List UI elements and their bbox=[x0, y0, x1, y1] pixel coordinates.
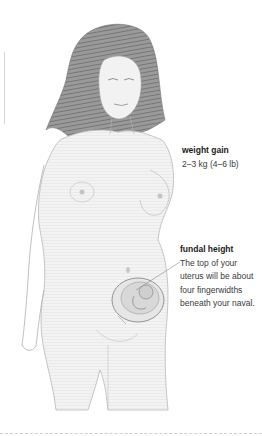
fundal-height-title: fundal height bbox=[180, 243, 258, 257]
weight-gain-value: 2–3 kg (4–6 lb) bbox=[182, 158, 262, 172]
page-divider bbox=[0, 433, 262, 435]
fundal-height-description: The top of your uterus will be about fou… bbox=[180, 257, 258, 311]
document-page: weight gain 2–3 kg (4–6 lb) fundal heigh… bbox=[0, 0, 262, 436]
pregnancy-illustration bbox=[0, 0, 262, 420]
weight-gain-title: weight gain bbox=[182, 144, 262, 158]
weight-gain-annotation: weight gain 2–3 kg (4–6 lb) bbox=[182, 144, 262, 171]
fundal-height-annotation: fundal height The top of your uterus wil… bbox=[180, 243, 258, 311]
